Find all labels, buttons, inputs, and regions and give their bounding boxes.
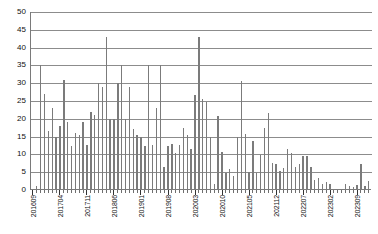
y-axis-tick-label: 15 bbox=[17, 133, 26, 141]
bar bbox=[44, 94, 45, 190]
bar bbox=[125, 119, 126, 190]
x-axis-tick bbox=[164, 190, 165, 193]
y-axis-tick-label: 5 bbox=[22, 168, 26, 176]
x-axis-tick bbox=[252, 190, 253, 193]
bar bbox=[136, 135, 137, 190]
x-axis-tick bbox=[44, 190, 45, 193]
bar-series bbox=[31, 12, 371, 190]
bar bbox=[55, 137, 56, 190]
x-axis-tick bbox=[225, 190, 226, 193]
x-axis-tick bbox=[36, 190, 37, 193]
x-axis-tick bbox=[79, 190, 80, 193]
x-axis-tick bbox=[48, 190, 49, 193]
bar bbox=[163, 167, 164, 190]
bar bbox=[86, 145, 87, 190]
bar bbox=[102, 87, 103, 190]
x-axis-tick bbox=[156, 190, 157, 193]
bar bbox=[113, 119, 114, 190]
x-axis-tick bbox=[125, 190, 126, 193]
bar bbox=[310, 167, 311, 190]
x-axis-tick bbox=[310, 190, 311, 193]
bar bbox=[252, 141, 253, 190]
bar bbox=[275, 164, 276, 190]
bar bbox=[98, 83, 99, 190]
bar bbox=[245, 134, 246, 190]
x-axis-tick bbox=[279, 190, 280, 193]
y-axis-tick-label: 20 bbox=[17, 115, 26, 123]
bar bbox=[295, 167, 296, 190]
x-axis-tick bbox=[360, 190, 361, 193]
bar bbox=[233, 176, 234, 190]
bar bbox=[94, 115, 95, 190]
x-axis-tick bbox=[71, 190, 72, 193]
x-axis-tick bbox=[233, 190, 234, 193]
y-axis-tick-label: 35 bbox=[17, 61, 26, 69]
x-axis-tick bbox=[353, 190, 354, 193]
bar bbox=[225, 173, 226, 190]
bar bbox=[90, 112, 91, 190]
bar bbox=[117, 83, 118, 190]
x-axis-tick bbox=[241, 190, 242, 193]
bar bbox=[283, 168, 284, 190]
x-axis-tick bbox=[148, 190, 149, 193]
bar bbox=[48, 131, 49, 190]
x-axis-tick bbox=[299, 190, 300, 193]
bar bbox=[272, 163, 273, 190]
x-axis-tick bbox=[63, 190, 64, 193]
bar bbox=[156, 108, 157, 190]
bar bbox=[268, 113, 269, 190]
bar bbox=[256, 173, 257, 190]
bar bbox=[121, 65, 122, 190]
bar bbox=[171, 144, 172, 190]
x-axis-tick bbox=[264, 190, 265, 193]
y-axis-tick-label: 10 bbox=[17, 150, 26, 158]
bar bbox=[190, 149, 191, 190]
x-axis-tick bbox=[121, 190, 122, 193]
bar bbox=[179, 145, 180, 190]
x-axis-tick bbox=[237, 190, 238, 193]
x-axis-tick bbox=[67, 190, 68, 193]
x-axis-tick bbox=[183, 190, 184, 193]
x-axis-tick bbox=[106, 190, 107, 193]
bar bbox=[326, 182, 327, 190]
x-axis-tick bbox=[295, 190, 296, 193]
y-axis-labels: 50454035302520151050 bbox=[0, 12, 30, 190]
bar bbox=[75, 133, 76, 190]
bar bbox=[306, 156, 307, 190]
bar bbox=[248, 172, 249, 191]
bar-slot bbox=[367, 12, 371, 190]
x-axis-tick bbox=[345, 190, 346, 193]
x-axis-tick bbox=[102, 190, 103, 193]
bar bbox=[109, 119, 110, 190]
y-axis-tick-label: 45 bbox=[17, 26, 26, 34]
x-axis-tick bbox=[133, 190, 134, 193]
x-axis-tick bbox=[52, 190, 53, 193]
x-axis-tick bbox=[287, 190, 288, 193]
bar bbox=[63, 80, 64, 190]
bar bbox=[279, 171, 280, 190]
x-axis-tick bbox=[117, 190, 118, 193]
bar bbox=[202, 99, 203, 190]
bar bbox=[129, 87, 130, 190]
x-axis-tick bbox=[152, 190, 153, 193]
x-axis-tick bbox=[260, 190, 261, 193]
x-axis-tick bbox=[272, 190, 273, 193]
x-axis-tick bbox=[368, 190, 369, 193]
bar bbox=[148, 65, 149, 190]
bar bbox=[52, 108, 53, 190]
bar bbox=[106, 37, 107, 190]
y-axis-tick-label: 40 bbox=[17, 44, 26, 52]
x-axis-tick bbox=[218, 190, 219, 193]
x-axis-tick bbox=[337, 190, 338, 193]
bar bbox=[229, 169, 230, 190]
x-axis-tick bbox=[171, 190, 172, 193]
x-axis-tick bbox=[322, 190, 323, 193]
x-label-slot bbox=[367, 195, 371, 234]
x-axis-tick bbox=[214, 190, 215, 193]
x-axis-tick bbox=[202, 190, 203, 193]
x-axis-tick bbox=[179, 190, 180, 193]
x-axis-tick bbox=[90, 190, 91, 193]
bar bbox=[175, 153, 176, 190]
bar bbox=[187, 135, 188, 190]
x-axis-tick bbox=[291, 190, 292, 193]
